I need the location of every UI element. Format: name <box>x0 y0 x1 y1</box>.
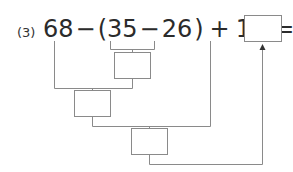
arrow-up-icon <box>260 44 266 50</box>
minus-sign: − <box>76 15 96 43</box>
step-box-3[interactable] <box>131 128 168 155</box>
minus-sign: − <box>140 15 160 43</box>
answer-box[interactable] <box>244 15 282 42</box>
step-box-1[interactable] <box>114 52 151 79</box>
operand-26: 26 <box>162 15 193 43</box>
operand-35: 35 <box>107 15 138 43</box>
left-paren: ( <box>98 15 107 43</box>
step-box-2[interactable] <box>74 90 111 117</box>
operand-68: 68 <box>43 15 74 43</box>
problem-number: (3) <box>17 25 35 40</box>
plus-sign: + <box>210 15 230 43</box>
right-paren: ) <box>194 15 203 43</box>
